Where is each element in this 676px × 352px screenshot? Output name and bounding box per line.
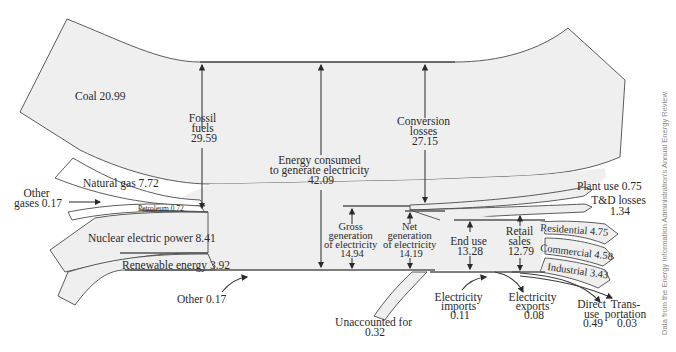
other-label: Other 0.17 (177, 293, 226, 305)
source-note: Data from the Energy Information Adminis… (660, 91, 669, 335)
other-gases-label: Other gases 0.17 (14, 187, 62, 210)
petroleum-label: Petroleum 0.72 (138, 204, 184, 213)
retail-sales-label: Retail sales 12.79 (506, 225, 536, 257)
other-arrow (222, 277, 247, 292)
renewable-label: Renewable energy 3.92 (122, 259, 230, 272)
coal-label: Coal 20.99 (75, 90, 126, 102)
td-losses-label: T&D losses 1.34 (591, 194, 649, 217)
unaccounted-flow (374, 272, 427, 320)
plant-use-label: Plant use 0.75 (577, 180, 642, 192)
imports-arrow (462, 277, 486, 290)
electricity-flow-diagram: Coal 20.99 Fossil fuels 29.59 Energy con… (0, 0, 676, 352)
unaccounted-label: Unaccounted for 0.32 (335, 316, 415, 338)
transportation-label: Trans- portation 0.03 (605, 298, 649, 329)
fossil-fuels-label: Fossil fuels 29.59 (189, 112, 219, 144)
imports-label: Electricity imports 0.11 (435, 291, 486, 321)
exports-label: Electricity exports 0.08 (509, 291, 560, 321)
exports-arrow (495, 272, 523, 292)
natural-gas-label: Natural gas 7.72 (83, 177, 159, 190)
nuclear-label: Nuclear electric power 8.41 (88, 232, 216, 245)
